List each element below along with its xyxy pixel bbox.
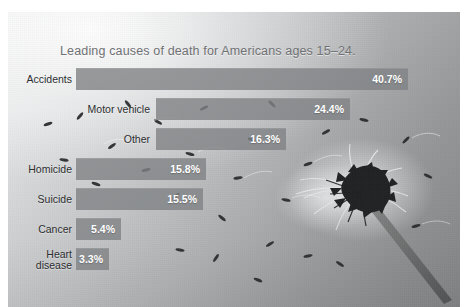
- chart-row-suicide: Suicide 15.5%: [8, 188, 460, 218]
- bar-value-motor-vehicle: 24.4%: [314, 98, 344, 120]
- chart-row-heart-disease: Heart disease 3.3%: [8, 248, 460, 278]
- bar-label-cancer: Cancer: [16, 218, 72, 240]
- bar-value-homicide: 15.8%: [170, 158, 200, 180]
- chart-row-accidents: Accidents 40.7%: [8, 68, 460, 98]
- bar-heart-disease: 3.3%: [76, 248, 109, 270]
- bar-homicide: 15.8%: [76, 158, 206, 180]
- bar-label-heart-disease-line2: disease: [16, 260, 72, 271]
- bar-label-motor-vehicle: Motor vehicle: [74, 98, 150, 120]
- bar-other: 16.3%: [156, 128, 286, 150]
- bar-value-suicide: 15.5%: [167, 188, 197, 210]
- bar-cancer: 5.4%: [76, 218, 121, 240]
- photograph: Leading causes of death for Americans ag…: [8, 12, 460, 307]
- bar-label-other: Other: [74, 128, 150, 150]
- figure-container: Leading causes of death for Americans ag…: [0, 0, 468, 307]
- bar-label-accidents: Accidents: [16, 68, 72, 90]
- bar-accidents: 40.7%: [76, 68, 408, 90]
- bar-chart: Leading causes of death for Americans ag…: [8, 12, 460, 307]
- chart-row-homicide: Homicide 15.8%: [8, 158, 460, 188]
- bar-suicide: 15.5%: [76, 188, 203, 210]
- bar-motor-vehicle: 24.4%: [156, 98, 350, 120]
- chart-row-cancer: Cancer 5.4%: [8, 218, 460, 248]
- bar-label-homicide: Homicide: [16, 158, 72, 180]
- bar-value-cancer: 5.4%: [91, 218, 115, 240]
- chart-title: Leading causes of death for Americans ag…: [60, 44, 356, 58]
- chart-row-other: Other 16.3%: [8, 128, 460, 158]
- chart-row-motor-vehicle: Motor vehicle 24.4%: [8, 98, 460, 128]
- bar-value-other: 16.3%: [250, 128, 280, 150]
- bar-label-heart-disease: Heart disease: [16, 248, 72, 273]
- bar-value-heart-disease: 3.3%: [79, 248, 103, 270]
- bar-label-suicide: Suicide: [16, 188, 72, 210]
- bar-value-accidents: 40.7%: [372, 68, 402, 90]
- chart-rows: Accidents 40.7% Motor vehicle 24.4% Othe…: [8, 68, 460, 278]
